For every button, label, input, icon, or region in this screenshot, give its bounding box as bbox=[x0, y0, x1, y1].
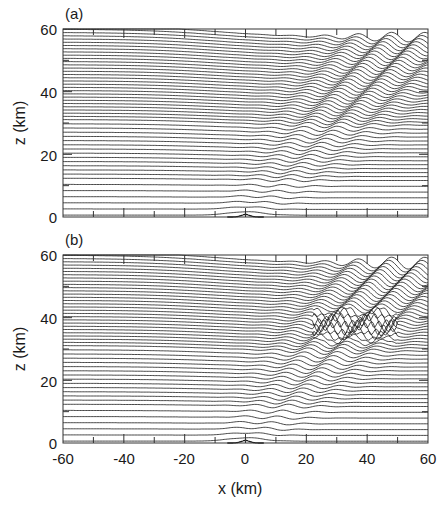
streamline bbox=[63, 400, 428, 404]
streamline bbox=[63, 65, 428, 78]
streamline bbox=[63, 339, 428, 348]
panel-b-plot bbox=[63, 255, 428, 443]
streamline-plots bbox=[0, 0, 445, 506]
streamline bbox=[63, 174, 428, 178]
streamline bbox=[63, 124, 428, 132]
streamline bbox=[63, 162, 428, 167]
streamline bbox=[63, 190, 428, 193]
streamline bbox=[63, 132, 428, 139]
streamline bbox=[63, 354, 428, 362]
streamline bbox=[63, 392, 428, 397]
streamline bbox=[63, 422, 428, 425]
streamline bbox=[63, 396, 428, 400]
streamline bbox=[63, 36, 428, 51]
streamline bbox=[63, 410, 428, 414]
streamline bbox=[63, 170, 428, 174]
streamline bbox=[63, 379, 428, 385]
streamline bbox=[63, 375, 428, 381]
streamline bbox=[63, 184, 428, 187]
streamline bbox=[63, 196, 428, 199]
streamline bbox=[63, 178, 428, 181]
streamline bbox=[63, 201, 428, 204]
panel-a-plot bbox=[63, 29, 428, 217]
streamline bbox=[63, 166, 428, 170]
streamline bbox=[63, 128, 428, 135]
streamline bbox=[63, 427, 428, 430]
streamline bbox=[63, 416, 428, 419]
streamline bbox=[63, 404, 428, 408]
streamline bbox=[63, 358, 428, 366]
